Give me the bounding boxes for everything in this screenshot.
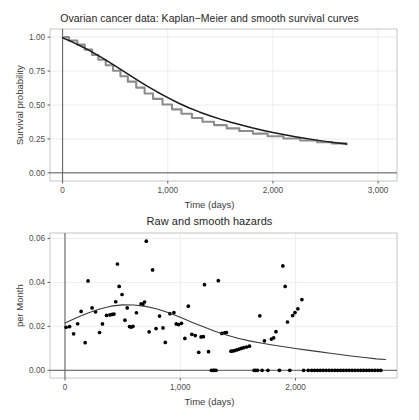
svg-text:2,000: 2,000 (263, 186, 284, 195)
figure-root: Ovarian cancer data: Kaplan−Meier and sm… (0, 0, 419, 420)
svg-text:0.00: 0.00 (29, 366, 45, 375)
hazard-chart-panel: Raw and smooth hazards 0.000.020.040.060… (0, 208, 419, 420)
svg-text:3,000: 3,000 (368, 186, 389, 195)
hazard-x-axis-label: Time (days) (0, 396, 419, 407)
svg-text:0: 0 (60, 186, 65, 195)
survival-plot-svg: 0.000.250.500.751.0001,0002,0003,000 (0, 0, 419, 210)
svg-text:0.75: 0.75 (29, 67, 45, 76)
svg-text:0.50: 0.50 (29, 101, 45, 110)
svg-text:0.25: 0.25 (29, 135, 45, 144)
svg-text:1,000: 1,000 (158, 186, 179, 195)
svg-text:0.02: 0.02 (29, 322, 45, 331)
svg-text:0: 0 (63, 383, 68, 392)
svg-text:2,000: 2,000 (285, 383, 306, 392)
svg-text:0.00: 0.00 (29, 169, 45, 178)
hazard-plot-svg: 0.000.020.040.0601,0002,000 (0, 208, 419, 420)
svg-text:1.00: 1.00 (29, 33, 45, 42)
hazard-y-axis-label: per Month (14, 284, 25, 327)
svg-text:0.06: 0.06 (29, 234, 45, 243)
survival-y-axis-label: Survival probability (14, 65, 25, 145)
svg-text:1,000: 1,000 (170, 383, 191, 392)
survival-chart-panel: Ovarian cancer data: Kaplan−Meier and sm… (0, 0, 419, 210)
svg-text:0.04: 0.04 (29, 278, 45, 287)
